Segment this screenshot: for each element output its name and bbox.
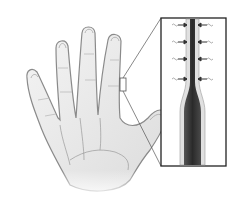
hand <box>0 27 166 199</box>
callout-marker <box>120 78 126 91</box>
inset-panel <box>161 18 226 166</box>
hand-diagram <box>0 0 246 199</box>
illustration <box>0 0 246 199</box>
hand-outline <box>27 27 166 191</box>
